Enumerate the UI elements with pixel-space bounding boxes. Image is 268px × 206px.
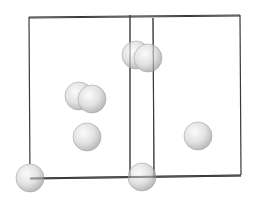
edge-right-vertical bbox=[240, 15, 241, 175]
atom-mid-front bbox=[78, 85, 106, 113]
crystal-structure-diagram bbox=[0, 0, 268, 206]
edge-overlay-inner-vertical-2 bbox=[153, 18, 154, 178]
cell-edges-front bbox=[30, 15, 241, 179]
atom-top-front bbox=[134, 44, 162, 72]
atom-center-right bbox=[184, 122, 212, 150]
atoms-group bbox=[16, 41, 212, 192]
atom-center-left bbox=[73, 123, 101, 151]
edge-left-vertical bbox=[29, 17, 30, 179]
cell-edges bbox=[29, 15, 241, 179]
unit-cell-svg bbox=[0, 0, 268, 206]
